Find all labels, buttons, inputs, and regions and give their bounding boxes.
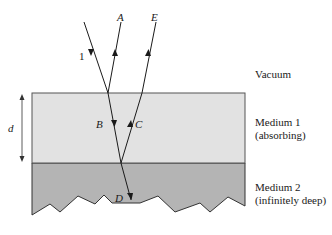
label-d: d (8, 122, 14, 134)
arrow-up-icon (20, 94, 25, 100)
arrow-down-icon (20, 156, 25, 162)
medium2-region (32, 163, 245, 215)
arrow-up-icon (112, 49, 118, 56)
label-medium1-line2: (absorbing) (255, 129, 306, 142)
label-medium1-line1: Medium 1 (255, 116, 301, 128)
label-B: B (96, 118, 103, 130)
ray-incident-1 (84, 22, 108, 93)
arrow-down-icon (88, 49, 94, 56)
diagram-canvas: 1 A E B C D d Vacuum Medium 1 (absorbing… (0, 0, 332, 235)
label-1: 1 (79, 50, 85, 62)
label-D: D (114, 192, 123, 204)
label-vacuum: Vacuum (255, 68, 291, 80)
ray-reflected-A (108, 22, 121, 93)
label-E: E (150, 11, 158, 23)
label-medium2-line1: Medium 2 (255, 181, 301, 193)
label-C: C (135, 118, 143, 130)
label-A: A (116, 11, 124, 23)
ray-emergent-E (142, 22, 156, 93)
label-medium2-line2: (infinitely deep) (255, 194, 327, 207)
